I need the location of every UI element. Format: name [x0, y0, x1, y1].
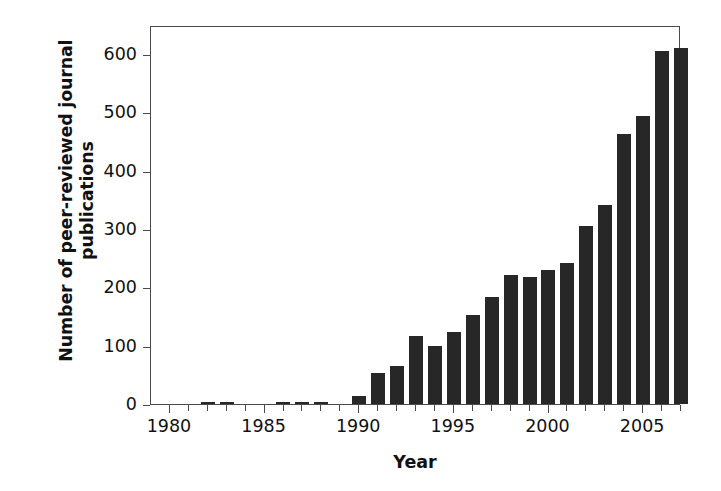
bar	[295, 402, 309, 404]
x-axis-tick	[623, 405, 624, 411]
bar	[466, 315, 480, 404]
x-axis-tick	[358, 405, 359, 413]
x-axis-tick	[320, 405, 321, 411]
y-axis-tick-label: 0	[60, 394, 137, 414]
y-axis-tick	[143, 113, 150, 114]
y-axis-tick	[143, 288, 150, 289]
x-axis-tick	[226, 405, 227, 411]
x-axis-tick	[661, 405, 662, 411]
y-axis-tick-label: 600	[60, 44, 137, 64]
bar	[655, 51, 669, 404]
bar	[617, 134, 631, 404]
bar	[598, 205, 612, 404]
x-axis-tick	[283, 405, 284, 411]
x-axis-tick	[472, 405, 473, 411]
x-axis-tick	[434, 405, 435, 411]
y-axis-tick-label: 300	[60, 219, 137, 239]
x-axis-tick	[566, 405, 567, 411]
x-axis-tick	[377, 405, 378, 411]
x-axis-tick	[491, 405, 492, 411]
bar	[201, 402, 215, 404]
x-axis-tick	[245, 405, 246, 411]
bar	[560, 263, 574, 404]
x-axis-title: Year	[150, 452, 680, 472]
x-axis-tick	[415, 405, 416, 411]
x-axis-tick	[585, 405, 586, 411]
bar	[390, 366, 404, 404]
plot-area	[150, 26, 680, 405]
x-axis-tick	[188, 405, 189, 411]
bar	[314, 402, 328, 404]
x-axis-tick	[548, 405, 549, 413]
x-axis-tick	[264, 405, 265, 413]
y-axis-tick-label: 200	[60, 277, 137, 297]
bar	[276, 402, 290, 404]
x-axis-tick-label: 1995	[423, 416, 483, 436]
bar	[485, 297, 499, 404]
x-axis-tick	[207, 405, 208, 411]
bar	[579, 226, 593, 404]
bar	[523, 277, 537, 404]
bar	[220, 402, 234, 404]
x-axis-tick	[529, 405, 530, 411]
x-axis-tick-label: 1990	[328, 416, 388, 436]
x-axis-tick-label: 2000	[518, 416, 578, 436]
bar	[371, 373, 385, 404]
y-axis-tick-label: 500	[60, 102, 137, 122]
y-axis-tick	[143, 55, 150, 56]
x-axis-tick	[339, 405, 340, 411]
y-axis-tick	[143, 347, 150, 348]
y-axis-tick	[143, 405, 150, 406]
x-axis-tick	[169, 405, 170, 413]
bar	[352, 396, 366, 404]
y-axis-tick-label: 100	[60, 336, 137, 356]
y-axis-tick	[143, 172, 150, 173]
x-axis-tick-label: 1980	[139, 416, 199, 436]
bar	[409, 336, 423, 404]
chart-figure: Number of peer-reviewed journal publicat…	[0, 0, 721, 491]
bar	[504, 275, 518, 404]
bar	[674, 48, 688, 404]
bar	[428, 346, 442, 404]
y-axis-tick	[143, 230, 150, 231]
bar	[541, 270, 555, 404]
bar	[447, 332, 461, 404]
x-axis-tick	[453, 405, 454, 413]
bar	[636, 116, 650, 404]
x-axis-tick	[642, 405, 643, 413]
x-axis-tick	[680, 405, 681, 411]
x-axis-tick-label: 1985	[234, 416, 294, 436]
x-axis-tick	[396, 405, 397, 411]
y-axis-tick-label: 400	[60, 161, 137, 181]
x-axis-tick	[301, 405, 302, 411]
bar-series	[151, 27, 679, 404]
x-axis-tick	[604, 405, 605, 411]
x-axis-tick-label: 2005	[612, 416, 672, 436]
x-axis-tick	[510, 405, 511, 411]
